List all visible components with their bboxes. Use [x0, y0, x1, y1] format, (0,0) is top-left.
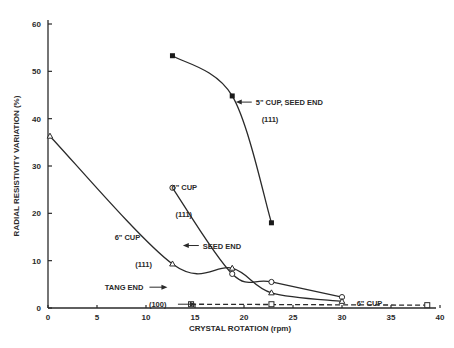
marker-open-square	[269, 302, 274, 307]
marker-open-triangle	[229, 265, 235, 270]
annotation-label: 6" CUP	[357, 299, 383, 308]
x-tick-label: 40	[436, 313, 445, 322]
annotation-label: (100)	[149, 300, 167, 309]
y-axis: 0102030405060 RADIAL RESISTIVITY VARIATI…	[12, 20, 52, 313]
plot-area	[47, 53, 430, 307]
annotation-label: (111)	[175, 210, 192, 219]
annotations: 5" CUP, SEED END(111)6" CUP(111)SEED END…	[105, 98, 383, 309]
x-axis-label: CRYSTAL ROTATION (rpm)	[189, 324, 292, 333]
marker-filled-square	[170, 53, 175, 58]
y-tick-label: 40	[32, 115, 41, 124]
marker-open-square	[425, 303, 430, 308]
x-tick-label: 0	[46, 313, 51, 322]
x-tick-label: 15	[191, 313, 200, 322]
series-1	[170, 185, 345, 300]
annotation-label: TANG END	[105, 283, 144, 292]
y-tick-label: 50	[32, 67, 41, 76]
marker-open-triangle	[269, 290, 275, 295]
y-tick-label: 60	[32, 20, 41, 29]
x-tick-label: 30	[338, 313, 347, 322]
x-tick-label: 10	[142, 313, 151, 322]
annotation-label: 6" CUP	[171, 183, 197, 192]
y-tick-label: 10	[32, 257, 41, 266]
marker-open-circle	[269, 279, 274, 284]
x-tick-label: 5	[95, 313, 100, 322]
x-tick-label: 35	[387, 313, 396, 322]
y-tick-label: 30	[32, 162, 41, 171]
marker-filled-square	[230, 93, 235, 98]
y-axis-label: RADIAL RESISTIVITY VARIATION (%)	[12, 95, 21, 236]
x-tick-label: 25	[289, 313, 298, 322]
x-tick-label: 20	[240, 313, 249, 322]
marker-filled-square	[269, 220, 274, 225]
series-3	[189, 302, 430, 308]
y-tick-label: 20	[32, 209, 41, 218]
x-axis: 0510152025303540 CRYSTAL ROTATION (rpm)	[46, 305, 445, 333]
annotation-label: (111)	[135, 260, 152, 269]
y-tick-label: 0	[37, 304, 42, 313]
annotation-label: SEED END	[203, 242, 242, 251]
series-0	[170, 53, 274, 225]
marker-open-circle	[230, 271, 235, 276]
series-2	[47, 133, 345, 303]
annotation-label: 6" CUP	[115, 233, 141, 242]
annotation-label: (111)	[262, 115, 279, 124]
chart: 0102030405060 RADIAL RESISTIVITY VARIATI…	[0, 0, 454, 348]
annotation-label: 5" CUP, SEED END	[256, 98, 324, 107]
